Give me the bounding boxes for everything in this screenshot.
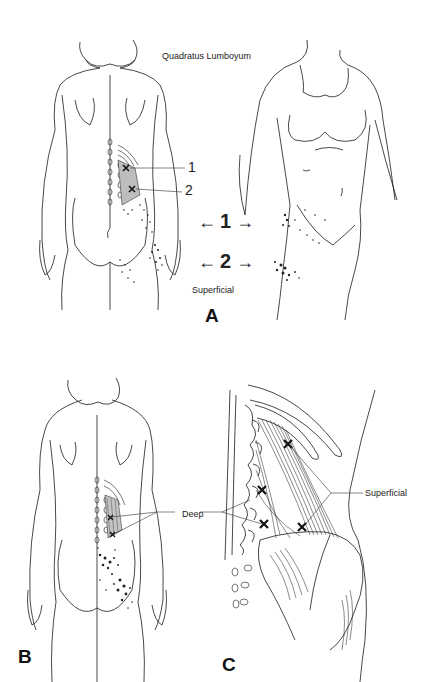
- posterior-body-illustration: [0, 0, 215, 310]
- arrow-right-icon: →: [236, 252, 254, 273]
- panel-c-anatomy-detail: C: [200, 340, 431, 682]
- panel-letter-c: C: [222, 654, 236, 676]
- trigger-point-label-1: 1: [188, 159, 196, 175]
- panel-letter-b: B: [18, 646, 32, 668]
- arrow-left-icon: ←: [198, 212, 216, 233]
- anterior-body-illustration: [215, 40, 431, 320]
- layer-label-superficial-c: Superficial: [365, 488, 407, 498]
- trigger-point-markers-c: [258, 440, 306, 531]
- layer-label-superficial-a: Superficial: [192, 285, 234, 295]
- trigger-point-label-2: 2: [185, 182, 193, 198]
- referral-label-1: 1: [220, 210, 231, 233]
- panel-letter-a: A: [205, 305, 219, 327]
- panel-a-posterior-figure: 1 2: [0, 0, 215, 310]
- arrow-right-icon: →: [236, 212, 254, 233]
- arrow-left-icon: ←: [198, 252, 216, 273]
- quadratus-lumborum-anatomy-illustration: [200, 340, 431, 682]
- referral-label-2: 2: [220, 250, 231, 273]
- panel-a-anterior-figure: [215, 40, 431, 320]
